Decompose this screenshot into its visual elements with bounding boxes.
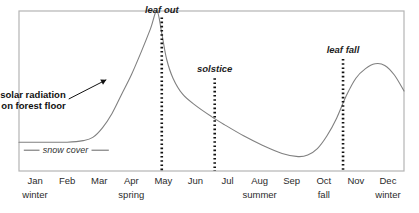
month-label-jun: Jun <box>188 175 203 186</box>
seasonal-solar-radiation-chart: snow cover leaf outsolsticeleaf fallsola… <box>0 0 419 213</box>
month-label-nov: Nov <box>347 175 364 186</box>
month-label-may: May <box>154 175 172 186</box>
callout-line-2: on forest floor <box>1 100 66 111</box>
season-label-4: winter <box>374 189 400 200</box>
month-label-aug: Aug <box>251 175 268 186</box>
marker-label-solstice: solstice <box>197 63 233 74</box>
month-label-mar: Mar <box>91 175 107 186</box>
month-label-dec: Dec <box>380 175 397 186</box>
season-label-1: spring <box>118 189 144 200</box>
month-label-jan: Jan <box>27 175 42 186</box>
season-label-2: summer <box>242 189 276 200</box>
month-label-oct: Oct <box>316 175 331 186</box>
marker-label-leaf-out: leaf out <box>145 4 180 15</box>
callout-line-1: solar radiation <box>0 89 66 100</box>
snow-cover-label: snow cover <box>43 145 90 155</box>
month-label-jul: Jul <box>221 175 233 186</box>
month-label-sep: Sep <box>283 175 300 186</box>
month-label-apr: Apr <box>124 175 139 186</box>
season-label-0: winter <box>21 189 47 200</box>
chart-page: snow cover leaf outsolsticeleaf fallsola… <box>0 0 419 213</box>
marker-label-leaf-fall: leaf fall <box>327 44 360 55</box>
season-label-3: fall <box>318 189 330 200</box>
month-label-feb: Feb <box>59 175 75 186</box>
